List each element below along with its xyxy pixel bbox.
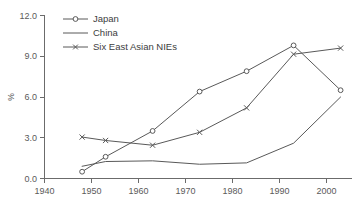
x-tick-label-0: 1940	[34, 186, 54, 196]
y-tick-label-4: 12.0	[19, 11, 37, 21]
series-layer	[80, 43, 344, 174]
legend-item-nies[interactable]: Six East Asian NIEs	[63, 41, 177, 52]
legend-label-nies: Six East Asian NIEs	[93, 41, 177, 52]
y-axis-ticks: 0.0 3.0 6.0 9.0 12.0	[19, 11, 44, 184]
x-tick-label-3: 1970	[175, 186, 195, 196]
legend-label-china: China	[93, 27, 119, 38]
x-tick-label-5: 1990	[269, 186, 289, 196]
line-chart: 0.0 3.0 6.0 9.0 12.0 % 1940 1950 1960 19…	[0, 0, 358, 207]
series-japan	[80, 43, 343, 174]
series-line	[82, 48, 341, 145]
data-point-marker	[338, 88, 343, 93]
chart-legend: Japan China Six East Asian NIEs	[63, 13, 177, 52]
y-axis-title: %	[6, 93, 16, 101]
y-tick-label-2: 6.0	[24, 92, 37, 102]
data-point-marker	[244, 69, 249, 74]
data-point-marker	[291, 43, 296, 48]
legend-label-japan: Japan	[93, 13, 119, 24]
data-point-marker	[80, 169, 85, 174]
y-tick-label-0: 0.0	[24, 174, 37, 184]
y-tick-label-3: 9.0	[24, 51, 37, 61]
x-tick-label-6: 2000	[316, 186, 336, 196]
x-axis-ticks: 1940 1950 1960 1970 1980 1990 2000	[34, 179, 336, 197]
chart-container: 0.0 3.0 6.0 9.0 12.0 % 1940 1950 1960 19…	[0, 0, 358, 207]
data-point-marker	[244, 105, 249, 110]
legend-marker-circle-icon	[73, 17, 78, 22]
data-point-marker	[197, 89, 202, 94]
x-tick-label-1: 1950	[81, 186, 101, 196]
data-point-marker	[103, 154, 108, 159]
legend-item-japan[interactable]: Japan	[63, 13, 119, 24]
series-line	[82, 45, 341, 171]
series-line	[82, 97, 341, 166]
series-china	[82, 97, 341, 166]
x-tick-label-4: 1980	[222, 186, 242, 196]
data-point-marker	[150, 129, 155, 134]
x-tick-label-2: 1960	[128, 186, 148, 196]
legend-item-china[interactable]: China	[63, 27, 119, 38]
y-tick-label-1: 3.0	[24, 133, 37, 143]
series-six-east-asian-nies	[80, 46, 344, 148]
